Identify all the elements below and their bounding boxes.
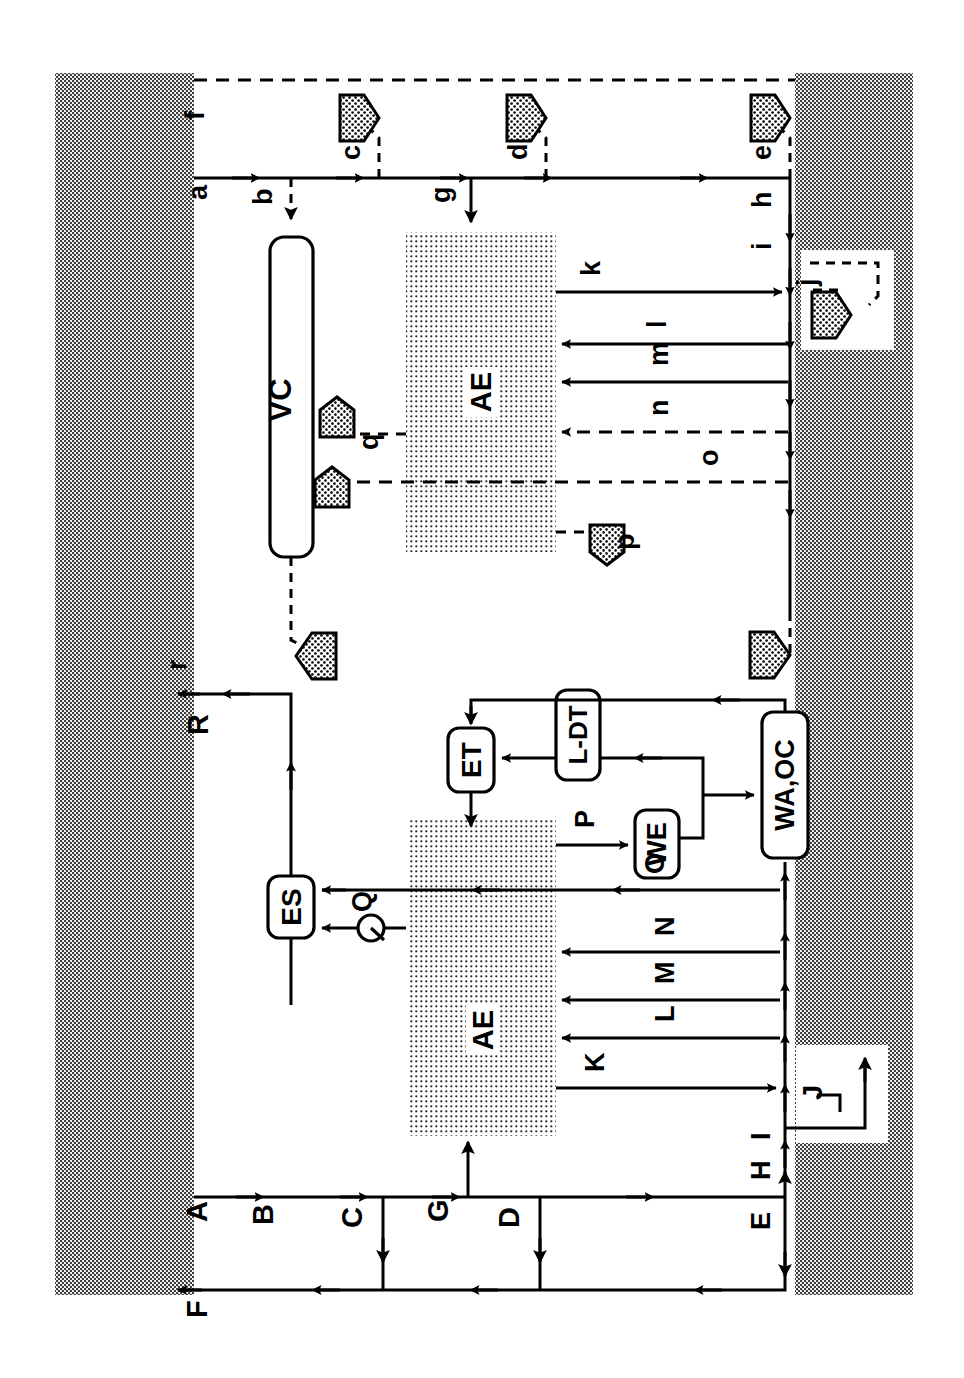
flow-line-e bbox=[780, 128, 790, 178]
block-et[interactable]: ET bbox=[448, 728, 494, 792]
flow-label-n: n bbox=[644, 400, 674, 417]
pentagon-marker-bottom bbox=[750, 632, 790, 678]
flow-label-N: N bbox=[650, 917, 680, 937]
pentagon-marker-d bbox=[507, 95, 546, 141]
block-et-label: ET bbox=[456, 742, 487, 778]
block-waoc[interactable]: WA,OC bbox=[762, 712, 808, 858]
pentagon-marker-e bbox=[751, 95, 790, 141]
flow-label-K: K bbox=[580, 1052, 610, 1072]
flow-label-q: q bbox=[354, 434, 384, 451]
block-ldt[interactable]: L-DT bbox=[556, 690, 600, 780]
zone-ae-lower-label: AE bbox=[467, 1010, 499, 1050]
zone-ae-lower: AE bbox=[408, 818, 556, 1136]
block-waoc-label: WA,OC bbox=[770, 739, 800, 831]
flow-label-L: L bbox=[650, 1006, 680, 1023]
inset-box-j bbox=[801, 250, 894, 350]
flow-label-g: g bbox=[426, 187, 456, 204]
block-es[interactable]: ES bbox=[268, 876, 314, 938]
flow-line-c bbox=[369, 128, 379, 178]
circle-marker-Q bbox=[358, 915, 384, 941]
flow-label-G: G bbox=[422, 1199, 454, 1222]
flow-label-m: m bbox=[644, 342, 674, 366]
zone-ae-upper-label: AE bbox=[465, 372, 497, 412]
block-vc-label: VC bbox=[263, 378, 298, 421]
flow-label-O: O bbox=[640, 853, 670, 874]
flow-label-a: a bbox=[183, 184, 213, 200]
flow-label-I: I bbox=[746, 1132, 776, 1140]
flow-label-B: B bbox=[247, 1204, 279, 1225]
flow-label-o: o bbox=[694, 450, 724, 467]
flow-label-p: p bbox=[610, 534, 640, 551]
lower-section: AE R ES ET L-DT WE bbox=[178, 690, 888, 1318]
flow-label-r: r bbox=[162, 659, 192, 670]
flow-label-C: C bbox=[336, 1207, 368, 1228]
flow-label-d: d bbox=[503, 144, 533, 161]
flow-label-f: f bbox=[180, 110, 210, 120]
block-vc[interactable]: VC bbox=[263, 237, 313, 557]
pentagon-marker-c bbox=[340, 95, 379, 141]
flow-label-l: l bbox=[642, 320, 672, 328]
flow-label-J: J bbox=[798, 1085, 828, 1100]
block-ldt-label: L-DT bbox=[563, 705, 593, 764]
flow-label-R: R bbox=[182, 714, 214, 735]
flow-label-F: F bbox=[181, 1300, 213, 1318]
flow-line-d bbox=[536, 128, 546, 178]
diagram-canvas: AE VC f a b c g bbox=[0, 0, 964, 1378]
flow-label-h: h bbox=[747, 192, 777, 209]
flow-line-R bbox=[178, 694, 291, 1005]
flow-label-k: k bbox=[576, 260, 606, 276]
flow-label-H: H bbox=[746, 1161, 776, 1181]
flow-label-A: A bbox=[181, 1201, 213, 1222]
flow-label-D: D bbox=[493, 1207, 525, 1228]
flow-label-Q: Q bbox=[347, 891, 377, 912]
flow-label-i: i bbox=[747, 242, 777, 250]
upper-section: AE VC f a b c g bbox=[162, 80, 894, 679]
block-es-label: ES bbox=[276, 888, 307, 925]
flow-label-j: j bbox=[792, 278, 822, 287]
flow-label-e: e bbox=[747, 145, 777, 160]
pentagon-marker-q bbox=[320, 397, 354, 437]
zone-ae-upper: AE bbox=[406, 232, 556, 552]
flow-label-M: M bbox=[650, 962, 680, 985]
flow-label-b: b bbox=[248, 189, 278, 206]
pentagon-marker-o bbox=[315, 467, 349, 507]
flow-label-P: P bbox=[570, 810, 600, 828]
pentagon-marker-r bbox=[296, 633, 336, 679]
diagram-svg: AE VC f a b c g bbox=[0, 0, 964, 1378]
flow-label-c: c bbox=[336, 145, 366, 160]
flow-label-E: E bbox=[746, 1212, 776, 1230]
